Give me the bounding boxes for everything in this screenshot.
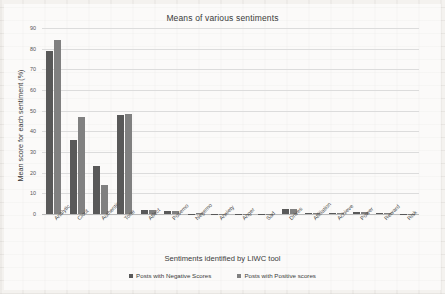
bar-group <box>136 28 160 214</box>
x-axis-label-cell: Authentic <box>89 215 113 253</box>
y-axis-tick: 50 <box>30 108 36 114</box>
x-axis-category-labels: AnalyticCloutAuthenticToneAffectPosemoNe… <box>42 215 419 253</box>
chart-figure: Means of various sentiments Mean score f… <box>4 4 441 290</box>
bar <box>376 213 383 214</box>
x-axis-label-cell: Drives <box>278 215 302 253</box>
bar <box>329 213 336 214</box>
bar <box>141 210 148 214</box>
bar-group <box>207 28 231 214</box>
bar <box>93 166 100 214</box>
y-axis-tick: 30 <box>30 149 36 155</box>
y-axis-tick: 10 <box>30 190 36 196</box>
x-axis-label-cell: Power <box>348 215 372 253</box>
y-axis-tick: 60 <box>30 87 36 93</box>
scanned-page-background: Means of various sentiments Mean score f… <box>0 0 445 294</box>
bar-groups <box>42 28 419 214</box>
legend-swatch-icon <box>129 274 133 278</box>
y-axis-tick: 70 <box>30 66 36 72</box>
x-axis-label-cell: Anxiety <box>207 215 231 253</box>
bar <box>282 209 289 214</box>
bar <box>46 51 53 214</box>
x-axis-label-cell: Negemo <box>183 215 207 253</box>
bar <box>305 213 312 214</box>
bar-group <box>66 28 90 214</box>
bar-group <box>372 28 396 214</box>
bar-group <box>278 28 302 214</box>
bar <box>117 115 124 214</box>
x-axis-label-cell: Affect <box>136 215 160 253</box>
legend-item: Posts with Negative Scores <box>129 272 211 279</box>
bar <box>164 211 171 214</box>
bar-group <box>183 28 207 214</box>
bar-group <box>254 28 278 214</box>
x-axis-title: Sentiments identified by LIWC tool <box>4 254 441 263</box>
chart-legend: Posts with Negative ScoresPosts with Pos… <box>4 272 441 279</box>
legend-label: Posts with Negative Scores <box>136 272 211 279</box>
plot-area <box>42 28 419 214</box>
bar-group <box>231 28 255 214</box>
x-axis-label-cell: Analytic <box>42 215 66 253</box>
bar <box>54 40 61 214</box>
bar-group <box>348 28 372 214</box>
x-axis-label-cell: Tone <box>113 215 137 253</box>
y-axis-tick: 20 <box>30 170 36 176</box>
bar <box>78 117 85 214</box>
bar <box>70 140 77 214</box>
bar-group <box>113 28 137 214</box>
y-axis-tick: 90 <box>30 25 36 31</box>
y-axis-tick: 40 <box>30 128 36 134</box>
bar-group <box>301 28 325 214</box>
chart-title: Means of various sentiments <box>4 13 441 23</box>
y-axis-tick: 80 <box>30 46 36 52</box>
y-axis-tick: 0 <box>33 211 36 217</box>
x-axis-label-cell: Sad <box>254 215 278 253</box>
x-axis-label-cell: Achieve <box>325 215 349 253</box>
x-axis-label-cell: Affiliation <box>301 215 325 253</box>
x-axis-label-cell: Clout <box>66 215 90 253</box>
bar <box>353 212 360 214</box>
x-axis-label-cell: Reward <box>372 215 396 253</box>
legend-item: Posts with Positive scores <box>237 272 316 279</box>
y-axis-tick-labels: 0102030405060708090 <box>4 28 40 214</box>
x-axis-label-cell: Risk <box>395 215 419 253</box>
bar-group <box>325 28 349 214</box>
bar-group <box>42 28 66 214</box>
bar-group <box>89 28 113 214</box>
legend-label: Posts with Positive scores <box>244 272 316 279</box>
x-axis-label-cell: Posemo <box>160 215 184 253</box>
legend-swatch-icon <box>237 274 241 278</box>
bar <box>125 114 132 214</box>
x-axis-label-cell: Anger <box>231 215 255 253</box>
bar-group <box>395 28 419 214</box>
bar-group <box>160 28 184 214</box>
